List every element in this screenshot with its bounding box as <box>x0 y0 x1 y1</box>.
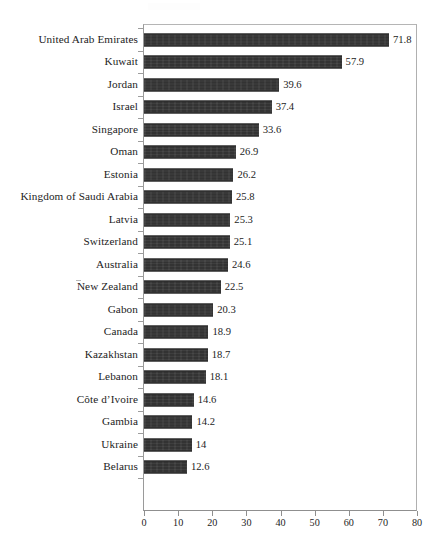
category-label: Israel <box>113 101 138 112</box>
x-axis-tick <box>281 511 282 516</box>
scan-artifact-top <box>148 3 200 10</box>
category-label: Latvia <box>109 214 138 225</box>
bar-with-value: 26.9 <box>144 146 258 159</box>
bar-row: Kuwait57.9 <box>0 51 443 74</box>
bar-chart-figure: United Arab Emirates71.8Kuwait57.9Jordan… <box>0 0 443 553</box>
bar-row: Belarus12.6 <box>0 456 443 479</box>
x-axis-tick <box>383 511 384 516</box>
bar <box>144 303 213 316</box>
bar-value-label: 14.6 <box>198 394 217 405</box>
y-axis-tick <box>138 478 144 479</box>
bar-value-label: 26.2 <box>237 169 256 180</box>
bar-row: Jordan39.6 <box>0 73 443 96</box>
bar-row: Switzerland25.1 <box>0 231 443 254</box>
bar-value-label: 18.9 <box>212 327 231 338</box>
bar-value-label: 22.5 <box>225 282 244 293</box>
bar-value-label: 25.1 <box>234 237 253 248</box>
y-axis-tick <box>138 433 144 434</box>
bar-row: Gabon20.3 <box>0 298 443 321</box>
bar <box>144 348 208 361</box>
bar-with-value: 71.8 <box>144 33 412 46</box>
bar-value-label: 39.6 <box>283 79 302 90</box>
bar-row: Oman26.9 <box>0 141 443 164</box>
bar <box>144 236 230 249</box>
x-axis-tick <box>212 511 213 516</box>
bar-with-value: 57.9 <box>144 56 364 69</box>
y-axis-tick <box>138 366 144 367</box>
bar-value-label: 33.6 <box>263 124 282 135</box>
category-label: Switzerland <box>83 236 138 247</box>
bar-value-label: 25.3 <box>234 214 253 225</box>
category-label: Australia <box>96 259 138 270</box>
bar-row: Singapore33.6 <box>0 118 443 141</box>
category-label: Estonia <box>104 169 138 180</box>
category-label: Oman <box>110 146 138 157</box>
category-label: Lebanon <box>98 371 138 382</box>
bar-value-label: 71.8 <box>393 34 412 45</box>
bar <box>144 326 208 339</box>
bar-with-value: 18.9 <box>144 326 231 339</box>
bar <box>144 438 192 451</box>
bar-row: Latvia25.3 <box>0 208 443 231</box>
bar-value-label: 57.9 <box>346 57 365 68</box>
bar-row: New Zealand22.5 <box>0 276 443 299</box>
bar <box>144 123 259 136</box>
category-label: Kuwait <box>104 56 138 67</box>
bar-value-label: 18.1 <box>210 372 229 383</box>
bar-with-value: 33.6 <box>144 123 281 136</box>
y-axis-tick <box>138 411 144 412</box>
category-label: United Arab Emirates <box>38 34 138 45</box>
bar-with-value: 14.2 <box>144 416 215 429</box>
x-axis-tick <box>246 511 247 516</box>
bar <box>144 371 206 384</box>
y-axis-tick <box>138 141 144 142</box>
y-axis-tick <box>138 298 144 299</box>
x-axis-tick-label: 30 <box>241 518 251 528</box>
y-axis-tick <box>138 73 144 74</box>
bar <box>144 258 228 271</box>
category-label: New Zealand <box>77 281 138 292</box>
bar-value-label: 25.8 <box>236 192 255 203</box>
x-axis-tick <box>178 511 179 516</box>
category-label: Kazakhstan <box>85 349 138 360</box>
bar-value-label: 14.2 <box>196 417 215 428</box>
bar-with-value: 39.6 <box>144 78 302 91</box>
bar-with-value: 12.6 <box>144 461 210 474</box>
bar-value-label: 20.3 <box>217 304 236 315</box>
bar <box>144 281 221 294</box>
bar-row: Côte d’Ivoire14.6 <box>0 388 443 411</box>
bar <box>144 461 187 474</box>
x-axis-tick <box>417 511 418 516</box>
bar-row: Lebanon18.1 <box>0 366 443 389</box>
bar-with-value: 25.8 <box>144 191 255 204</box>
bar <box>144 78 279 91</box>
x-axis-tick-label: 80 <box>412 518 422 528</box>
bar-value-label: 37.4 <box>276 102 295 113</box>
y-axis-tick <box>138 388 144 389</box>
bar-row: Gambia14.2 <box>0 411 443 434</box>
x-axis-tick-label: 0 <box>141 518 146 528</box>
y-axis-tick <box>138 276 144 277</box>
bar-with-value: 18.7 <box>144 348 230 361</box>
x-axis-tick-label: 40 <box>275 518 285 528</box>
bar <box>144 33 389 46</box>
bar-value-label: 12.6 <box>191 462 210 473</box>
bar-value-label: 26.9 <box>240 147 259 158</box>
bar <box>144 393 194 406</box>
x-axis-tick-label: 10 <box>173 518 183 528</box>
y-axis-tick <box>138 163 144 164</box>
bar-with-value: 22.5 <box>144 281 243 294</box>
category-label: Singapore <box>92 124 138 135</box>
category-label: Kingdom of Saudi Arabia <box>20 191 138 202</box>
y-axis-tick <box>138 321 144 322</box>
bar <box>144 213 230 226</box>
bar <box>144 416 192 429</box>
bar-with-value: 25.3 <box>144 213 253 226</box>
bar <box>144 101 272 114</box>
bar <box>144 56 342 69</box>
category-label: Côte d’Ivoire <box>77 394 138 405</box>
x-axis-tick <box>315 511 316 516</box>
category-label: Jordan <box>108 79 138 90</box>
bar-value-label: 14 <box>196 439 207 450</box>
y-axis-tick <box>138 231 144 232</box>
